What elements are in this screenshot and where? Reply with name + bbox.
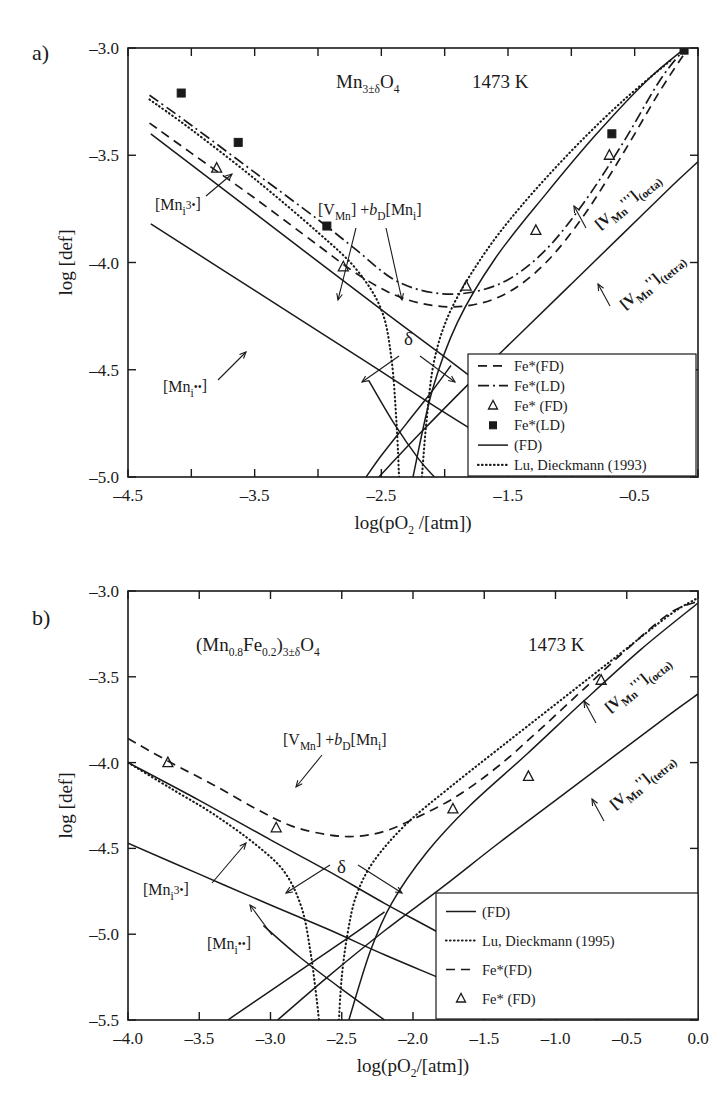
- legend-item-label: Fe*(FD): [514, 358, 564, 375]
- annotation-arrow: [286, 865, 330, 893]
- marker-triangle: [604, 150, 614, 160]
- marker-square: [177, 89, 185, 97]
- legend-item-label: (FD): [482, 904, 510, 921]
- x-tick-label: –4.0: [112, 1029, 143, 1048]
- plot-temperature: 1473 K: [528, 634, 585, 655]
- marker-layer: [163, 675, 606, 832]
- y-tick-label: –4.0: [88, 754, 119, 773]
- data-curve: [150, 99, 400, 477]
- marker-square: [608, 130, 616, 138]
- annotation-arrow: [592, 799, 604, 821]
- legend-item-label: (FD): [514, 437, 542, 454]
- annotation-arrow: [296, 755, 322, 787]
- y-tick-label: –3.5: [88, 668, 119, 687]
- legend-key-square: [490, 422, 497, 429]
- x-axis-title: log(pO2 /[atm]): [354, 512, 471, 536]
- y-tick-label: –5.0: [88, 468, 119, 487]
- annotation-mn-i-3dot: [Mni3•]: [143, 880, 189, 902]
- legend-item-label: Fe* (FD): [482, 991, 536, 1008]
- annotation-arrow: [358, 865, 402, 893]
- x-tick-label: –1.5: [492, 486, 523, 505]
- annotation-v-mn-tetra: [VMn''](tetra): [607, 750, 680, 816]
- marker-triangle: [461, 281, 471, 291]
- x-tick-label: –3.5: [239, 486, 270, 505]
- x-tick-label: –3.0: [255, 1029, 286, 1048]
- legend-item-label: Fe*(FD): [482, 962, 532, 979]
- y-axis-title: log [def]: [55, 230, 76, 296]
- panel-a-svg: a)–4.5–3.5–2.5–1.5–0.5–3.0–3.5–4.0–4.5–5…: [0, 0, 727, 553]
- annotation-mn-i-2dot: [Mni••]: [207, 934, 251, 956]
- y-axis-title: log [def]: [55, 773, 76, 839]
- annotation-arrow: [386, 228, 402, 300]
- annotation-delta: δ: [337, 856, 346, 877]
- y-tick-label: –5.5: [88, 1011, 119, 1030]
- figure-root: a)–4.5–3.5–2.5–1.5–0.5–3.0–3.5–4.0–4.5–5…: [0, 0, 727, 1106]
- marker-layer: [177, 46, 688, 290]
- legend-item-label: Lu, Dieckmann (1995): [482, 933, 615, 950]
- annotation-arrow: [584, 701, 596, 723]
- annotation-v-mn-plus-bd: [VMn] +bD[Mni]: [318, 201, 422, 222]
- plot-title-group: (Mn0.8Fe0.2)3±δO41473 K: [196, 634, 585, 658]
- annotation-v-mn-tetra: [VMn''](tetra): [617, 250, 690, 316]
- annotation-arrow: [212, 843, 246, 883]
- data-curve: [366, 365, 451, 477]
- data-curve: [263, 926, 384, 1020]
- annotation-mn-i-2dot: [Mni••]: [163, 377, 207, 399]
- x-tick-label: –2.5: [365, 486, 396, 505]
- annotation-arrow: [598, 284, 610, 306]
- plot-title-group: Mn3±δO41473 K: [336, 71, 529, 95]
- data-curve: [150, 48, 686, 294]
- y-tick-label: –3.0: [88, 582, 119, 601]
- annotation-mn-i-3dot: [Mni3•]: [155, 195, 201, 217]
- marker-triangle: [448, 803, 458, 813]
- x-tick-label: –1.5: [468, 1029, 499, 1048]
- plot-title-formula: Mn3±δO4: [336, 71, 400, 95]
- legend-item-label: Fe*(LD): [514, 378, 565, 395]
- plot-temperature: 1473 K: [472, 71, 529, 92]
- marker-square: [234, 138, 242, 146]
- annotation-v-mn-plus-bd: [VMn] +bD[Mni]: [283, 731, 387, 752]
- x-tick-label: –2.5: [326, 1029, 357, 1048]
- annotation-arrowhead: [286, 887, 293, 893]
- legend-item-label: Fe*(LD): [514, 417, 565, 434]
- marker-triangle: [531, 225, 541, 235]
- x-tick-label: –0.5: [611, 1029, 642, 1048]
- y-tick-label: –3.5: [88, 146, 119, 165]
- marker-square: [323, 222, 331, 230]
- legend-item-label: Fe* (FD): [514, 398, 568, 415]
- panel-letter-a: a): [32, 40, 49, 65]
- panel-b: b)–4.0–3.5–3.0–2.5–2.0–1.5–1.0–0.50.0–3.…: [0, 553, 727, 1106]
- marker-triangle: [271, 822, 281, 832]
- x-tick-label: –0.5: [619, 486, 650, 505]
- marker-triangle: [523, 771, 533, 781]
- annotation-arrow: [218, 352, 246, 380]
- legend: (FD)Lu, Dieckmann (1995)Fe*(FD)Fe* (FD): [436, 893, 698, 1019]
- y-tick-label: –3.0: [88, 39, 119, 58]
- x-tick-label: 0.0: [687, 1029, 708, 1048]
- x-tick-label: –2.0: [397, 1029, 428, 1048]
- panel-b-svg: b)–4.0–3.5–3.0–2.5–2.0–1.5–1.0–0.50.0–3.…: [0, 553, 727, 1106]
- annotation-delta: δ: [404, 328, 413, 349]
- panel-a: a)–4.5–3.5–2.5–1.5–0.5–3.0–3.5–4.0–4.5–5…: [0, 0, 727, 553]
- x-tick-label: –4.5: [112, 486, 143, 505]
- legend: Fe*(FD)Fe*(LD)Fe* (FD)Fe*(LD)(FD)Lu, Die…: [468, 354, 696, 476]
- y-tick-label: –4.5: [88, 839, 119, 858]
- x-tick-label: –1.0: [540, 1029, 571, 1048]
- annotation-v-mn-octa: [VMn'''](octa): [602, 652, 676, 719]
- panel-letter-b: b): [32, 605, 50, 630]
- plot-title-formula: (Mn0.8Fe0.2)3±δO4: [196, 634, 320, 658]
- y-tick-label: –4.5: [88, 361, 119, 380]
- y-tick-label: –4.0: [88, 254, 119, 273]
- legend-item-label: Lu, Dieckmann (1993): [514, 457, 647, 474]
- y-tick-label: –5.0: [88, 925, 119, 944]
- annotation-arrow: [250, 905, 272, 935]
- x-tick-label: –3.5: [183, 1029, 214, 1048]
- x-axis-title: log(pO2/[atm]): [357, 1055, 469, 1079]
